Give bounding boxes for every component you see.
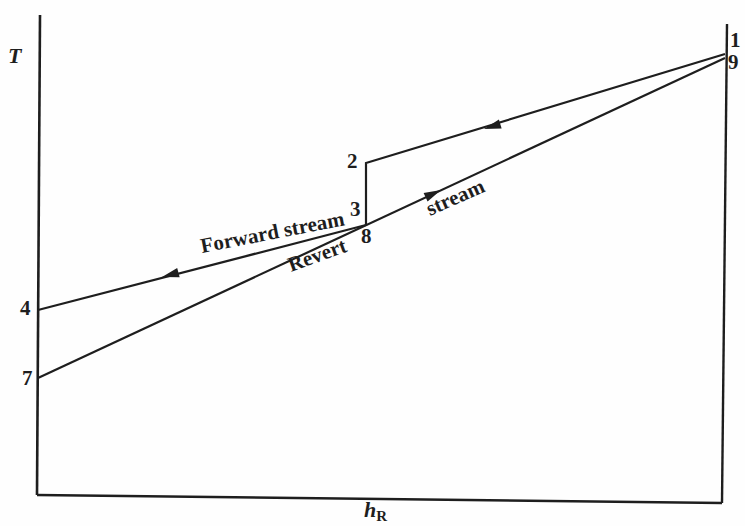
x-axis-label-subscript: R bbox=[376, 508, 387, 524]
forward-stream-line bbox=[38, 54, 725, 310]
x-axis bbox=[37, 495, 722, 503]
x-axis-label-base: h bbox=[364, 497, 376, 522]
stream-word-label: stream bbox=[422, 173, 488, 220]
y-axis-label: T bbox=[8, 43, 23, 68]
t-h-diagram-figure: 1923847Forward streamRevertstreamThR bbox=[0, 0, 745, 526]
forward-stream-arrowhead-2 bbox=[161, 268, 180, 281]
point-label-1: 1 bbox=[730, 28, 741, 52]
point-label-4: 4 bbox=[20, 296, 31, 320]
point-label-2: 2 bbox=[347, 149, 358, 173]
point-label-7: 7 bbox=[22, 366, 33, 390]
revert-stream-line bbox=[38, 58, 725, 378]
point-label-8: 8 bbox=[361, 224, 372, 248]
y-axis bbox=[37, 15, 40, 495]
right-border bbox=[722, 24, 727, 503]
x-axis-label: hR bbox=[364, 497, 387, 524]
point-label-3: 3 bbox=[350, 197, 361, 221]
point-label-9: 9 bbox=[728, 50, 739, 74]
t-h-diagram: 1923847Forward streamRevertstreamThR bbox=[0, 0, 745, 526]
